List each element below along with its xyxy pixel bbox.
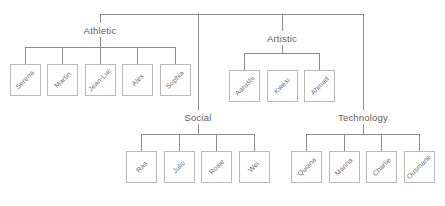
group-label-artistic[interactable]: Artistic <box>267 33 297 44</box>
member-name-label: Serena <box>14 69 36 91</box>
member-name-label: Aarushi <box>233 75 256 98</box>
member-name-label: Quiana <box>296 156 318 178</box>
member-box[interactable]: Marina <box>329 151 360 183</box>
group-label-technology[interactable]: Technology <box>338 112 388 123</box>
member-box[interactable]: Sophia <box>160 64 191 96</box>
member-box[interactable]: Wei <box>239 151 270 183</box>
member-name-label: Rosie <box>207 158 226 177</box>
member-name-label: Martin <box>53 70 73 90</box>
member-box[interactable]: Quiana <box>291 151 322 183</box>
member-name-label: Ahmad <box>309 75 331 97</box>
member-box[interactable]: Ahmad <box>304 70 335 102</box>
org-chart-diagram: AthleticArtisticSocialTechnology SerenaM… <box>0 0 445 206</box>
member-box[interactable]: Ras <box>126 151 157 183</box>
member-box[interactable]: Kwesi <box>267 70 298 102</box>
member-name-label: Marina <box>334 156 355 177</box>
member-name-label: Kwesi <box>272 76 291 95</box>
member-box[interactable]: Rosie <box>201 151 232 183</box>
member-name-label: Wei <box>247 160 261 174</box>
member-box[interactable]: Julio <box>164 151 195 183</box>
member-box[interactable]: Martin <box>47 64 78 96</box>
member-name-label: Alex <box>130 72 146 88</box>
member-box[interactable]: Jean-Luc <box>85 64 116 96</box>
member-box[interactable]: Aarushi <box>229 70 260 102</box>
group-label-social[interactable]: Social <box>184 112 211 123</box>
member-name-label: Charlie <box>371 156 393 178</box>
member-name-label: Ousmane <box>405 153 433 181</box>
member-box[interactable]: Alex <box>122 64 153 96</box>
group-label-athletic[interactable]: Athletic <box>84 25 117 36</box>
member-box[interactable]: Ousmane <box>404 151 435 183</box>
member-name-label: Sophia <box>164 69 186 91</box>
member-box[interactable]: Charlie <box>366 151 397 183</box>
member-name-label: Jean-Luc <box>87 67 114 94</box>
member-name-label: Ras <box>134 160 149 175</box>
member-box[interactable]: Serena <box>10 64 41 96</box>
member-name-label: Julio <box>171 159 187 175</box>
